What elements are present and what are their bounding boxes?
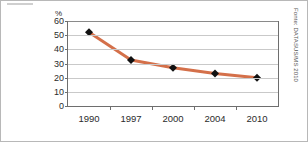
x-tick-label: 1990 [78, 113, 99, 124]
x-tick-label: 2004 [204, 113, 225, 124]
y-tick-mark [65, 49, 68, 50]
y-tick-label: 0 [59, 101, 64, 111]
x-tick-mark [236, 106, 237, 110]
gridline [68, 92, 278, 93]
chart-plot-container: % 010203040506019901997200020042010 [5, 4, 283, 138]
y-tick-mark [65, 64, 68, 65]
y-tick-mark [65, 35, 68, 36]
y-tick-mark [65, 106, 68, 107]
x-tick-label: 1997 [120, 113, 141, 124]
y-tick-mark [65, 78, 68, 79]
y-tick-label: 30 [54, 59, 64, 69]
x-tick-label: 2010 [246, 113, 267, 124]
y-tick-label: 20 [54, 73, 64, 83]
x-tick-mark [194, 106, 195, 110]
y-tick-label: 40 [54, 44, 64, 54]
source-text: Fonte: DATASUS/MS 2010 [293, 8, 299, 82]
chart-figure: % 010203040506019901997200020042010 Font… [0, 0, 308, 142]
y-tick-mark [65, 92, 68, 93]
source-note: Fonte: DATASUS/MS 2010 [287, 4, 305, 138]
y-tick-label: 60 [54, 16, 64, 26]
gridline [68, 64, 278, 65]
data-point-marker [169, 64, 177, 72]
x-tick-mark [110, 106, 111, 110]
gridline [68, 78, 278, 79]
x-tick-label: 2000 [162, 113, 183, 124]
y-tick-label: 50 [54, 30, 64, 40]
y-tick-label: 10 [54, 87, 64, 97]
y-tick-mark [65, 21, 68, 22]
x-tick-mark [152, 106, 153, 110]
plot-area: 010203040506019901997200020042010 [67, 21, 279, 107]
data-point-marker [211, 69, 219, 77]
gridline [68, 35, 278, 36]
gridline [68, 49, 278, 50]
series-markers [85, 28, 261, 81]
gridline [68, 21, 278, 22]
